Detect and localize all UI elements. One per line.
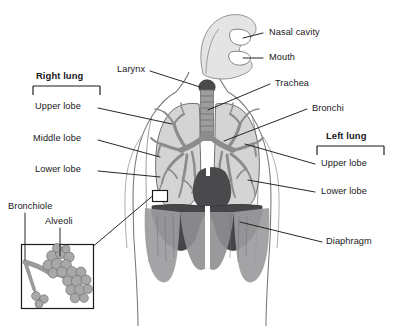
label-trachea: Trachea <box>275 79 309 88</box>
magnification-connector <box>94 196 153 246</box>
label-right-lower-lobe: Lower lobe <box>35 165 81 174</box>
label-bronchi: Bronchi <box>312 104 344 113</box>
head-profile <box>201 15 256 79</box>
label-mouth: Mouth <box>269 53 295 62</box>
label-right-lung-title: Right lung <box>36 71 83 80</box>
alveoli-inset-box <box>22 244 94 309</box>
label-left-lung-title: Left lung <box>326 131 366 140</box>
respiratory-system-diagram: Nasal cavity Mouth Trachea Bronchi Laryn… <box>0 0 404 326</box>
label-left-upper-lobe: Upper lobe <box>321 159 367 168</box>
label-diaphragm: Diaphragm <box>326 237 372 246</box>
label-nasal-cavity: Nasal cavity <box>269 28 320 37</box>
label-larynx: Larynx <box>117 65 145 74</box>
label-alveoli: Alveoli <box>45 217 73 226</box>
label-left-lower-lobe: Lower lobe <box>321 187 367 196</box>
magnification-source-box <box>153 191 168 202</box>
abdomen-region <box>145 206 270 282</box>
trachea-structure <box>201 90 214 136</box>
label-bronchiole: Bronchiole <box>8 202 52 211</box>
label-right-upper-lobe: Upper lobe <box>35 102 81 111</box>
label-right-middle-lobe: Middle lobe <box>33 134 81 143</box>
